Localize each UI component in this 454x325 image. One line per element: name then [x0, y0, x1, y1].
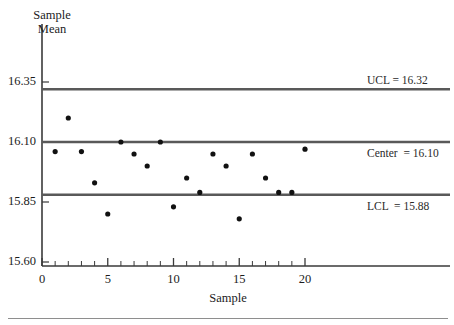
data-point — [105, 211, 110, 216]
data-point — [197, 190, 202, 195]
y-tick-label-15-60: 15.60 — [0, 254, 36, 268]
x-tick-label-10: 10 — [159, 272, 189, 286]
y-axis-title-line1: Sample — [33, 8, 71, 22]
page-bottom-divider — [8, 318, 448, 319]
data-point — [250, 151, 255, 156]
data-point — [210, 151, 215, 156]
data-point — [263, 175, 268, 180]
chart-axes — [42, 24, 450, 266]
data-point — [92, 180, 97, 185]
x-tick-label-0: 0 — [27, 272, 57, 286]
y-axis-title: SampleMean — [20, 8, 84, 36]
data-point — [118, 139, 123, 144]
data-point — [302, 147, 307, 152]
ucl-label: UCL = 16.32 — [367, 74, 428, 87]
y-tick-label-15-85: 15.85 — [0, 194, 36, 208]
center-line-label: Center = 16.10 — [367, 147, 439, 160]
y-axis-title-line2: Mean — [38, 22, 66, 36]
x-tick-label-20: 20 — [290, 272, 320, 286]
data-point — [184, 175, 189, 180]
data-point — [158, 139, 163, 144]
x-axis-title: Sample — [198, 291, 258, 305]
control-chart-page: SampleMean 16.35 16.10 15.85 15.60 0 5 1… — [0, 0, 454, 325]
data-point — [66, 115, 71, 120]
data-point — [145, 163, 150, 168]
data-point — [224, 163, 229, 168]
data-point — [171, 204, 176, 209]
data-point — [79, 149, 84, 154]
control-chart: SampleMean 16.35 16.10 15.85 15.60 0 5 1… — [0, 0, 454, 325]
data-point — [131, 151, 136, 156]
lcl-label: LCL = 15.88 — [367, 200, 429, 213]
x-tick-label-5: 5 — [93, 272, 123, 286]
x-tick-label-15: 15 — [224, 272, 254, 286]
y-tick-label-16-10: 16.10 — [0, 134, 36, 148]
data-point — [289, 190, 294, 195]
y-tick-label-16-35: 16.35 — [0, 74, 36, 88]
data-point-series — [53, 115, 308, 221]
control-limit-lines — [42, 89, 450, 195]
data-point — [53, 149, 58, 154]
data-point — [276, 190, 281, 195]
data-point — [237, 216, 242, 221]
